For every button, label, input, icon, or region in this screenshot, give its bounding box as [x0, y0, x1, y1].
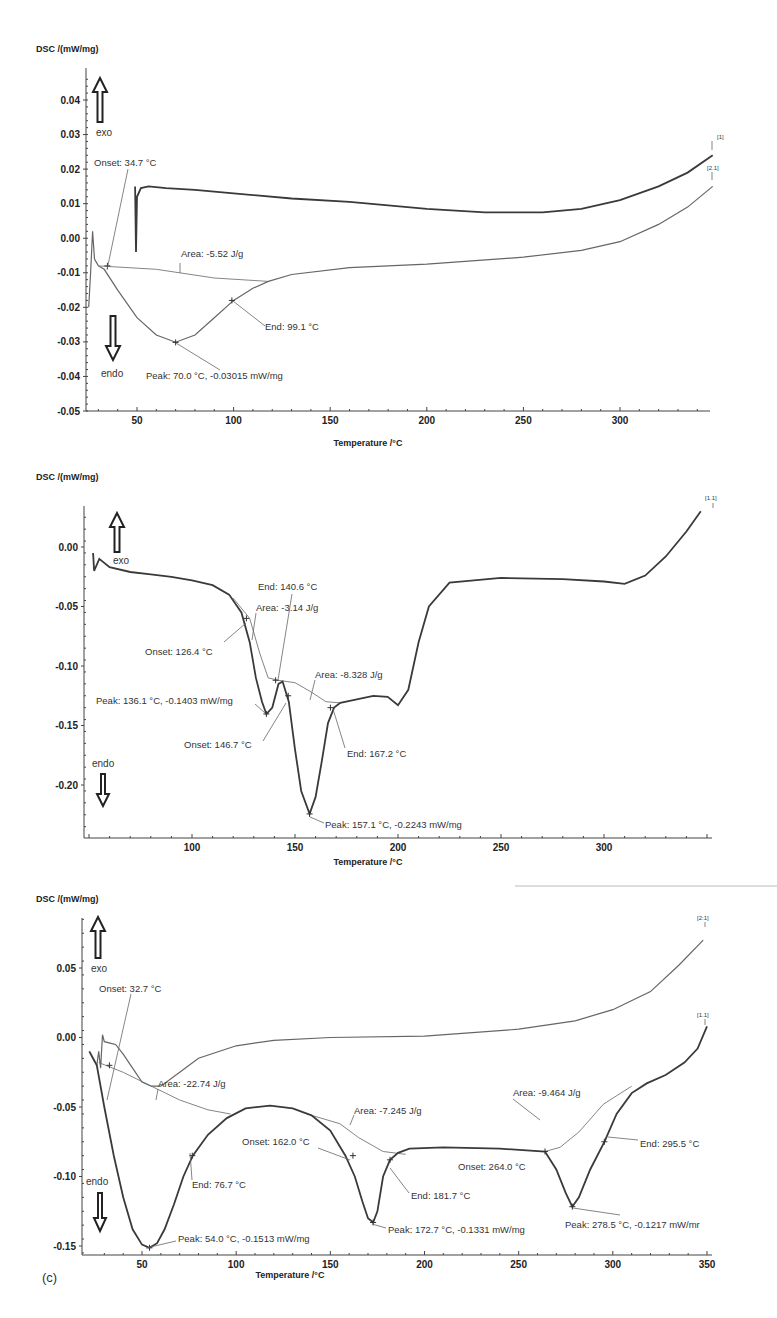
- annotation-peak: Peak: 70.0 °C, -0.03015 mW/mg: [146, 370, 283, 381]
- annotation-onset: Onset: 264.0 °C: [458, 1161, 526, 1172]
- svg-text:100: 100: [184, 842, 201, 853]
- annotation-onset: Onset: 162.0 °C: [242, 1136, 310, 1147]
- svg-text:0.05: 0.05: [57, 963, 77, 974]
- axes: 1001502002503000.00-0.05-0.10-0.15-0.20: [55, 506, 712, 853]
- svg-text:-0.05: -0.05: [53, 1102, 76, 1113]
- svg-text:-0.15: -0.15: [55, 720, 78, 731]
- annotation-area: Area: -7.245 J/g: [354, 1105, 422, 1116]
- annotation-area: Area: -8.328 J/g: [315, 669, 383, 680]
- axes: 501001502002503003500.050.00-0.05-0.10-0…: [53, 918, 716, 1270]
- annotation-end: End: 181.7 °C: [411, 1190, 470, 1201]
- marker-cross-icon: [307, 811, 313, 817]
- endo-label: endo: [101, 368, 124, 379]
- svg-text:150: 150: [287, 842, 304, 853]
- exo-label: exo: [113, 555, 130, 566]
- svg-text:300: 300: [596, 842, 613, 853]
- baseline: [312, 1115, 406, 1154]
- panel-label: (c): [42, 1270, 57, 1285]
- annotation-peak: Peak: 157.1 °C, -0.2243 mW/mg: [325, 819, 462, 830]
- svg-text:300: 300: [612, 415, 629, 426]
- y-axis-label: DSC /(mW/mg): [36, 472, 99, 482]
- x-axis-label: Temperature /°C: [256, 1270, 325, 1280]
- svg-text:-0.10: -0.10: [55, 661, 78, 672]
- curve-tag: [1.1]: [697, 1012, 709, 1018]
- annotation-onset: Onset: 126.4 °C: [145, 646, 213, 657]
- svg-text:-0.20: -0.20: [55, 780, 78, 791]
- svg-text:-0.05: -0.05: [57, 406, 80, 417]
- exo-arrow-icon: [91, 917, 105, 958]
- svg-text:50: 50: [136, 1259, 148, 1270]
- x-axis-label: Temperature /°C: [334, 438, 403, 448]
- dsc-curve: [89, 1026, 707, 1247]
- svg-text:0.00: 0.00: [61, 233, 81, 244]
- annotation-area: Area: -3.14 J/g: [256, 602, 318, 613]
- annotation-leaders: [224, 503, 713, 823]
- curves: [93, 511, 701, 817]
- annotation-peak: Peak: 172.7 °C, -0.1331 mW/mg: [388, 1224, 525, 1235]
- annotation-area: Area: -5.52 J/g: [181, 248, 243, 259]
- annotation-area: Area: -9.464 J/g: [513, 1087, 581, 1098]
- svg-text:-0.03: -0.03: [57, 336, 80, 347]
- svg-text:50: 50: [131, 415, 143, 426]
- annotation-end: End: 76.7 °C: [192, 1179, 246, 1190]
- svg-text:0.00: 0.00: [57, 1032, 77, 1043]
- svg-text:200: 200: [416, 1259, 433, 1270]
- svg-text:150: 150: [322, 415, 339, 426]
- curve-tag: [2.1]: [707, 165, 719, 171]
- y-axis-label: DSC /(mW/mg): [36, 894, 99, 904]
- curves: [89, 940, 707, 1251]
- svg-text:250: 250: [493, 842, 510, 853]
- baseline: [98, 266, 268, 282]
- svg-text:0.03: 0.03: [61, 129, 81, 140]
- marker-cross-icon: [601, 1139, 607, 1145]
- annotation-end: End: 295.5 °C: [640, 1138, 699, 1149]
- curve-tag: [2:1]: [697, 915, 709, 921]
- svg-text:350: 350: [699, 1259, 716, 1270]
- chart-2: DSC /(mW/mg) 1001502002503000.00-0.05-0.…: [36, 472, 717, 867]
- annotation-onset: Onset: 34.7 °C: [94, 157, 157, 168]
- svg-text:-0.05: -0.05: [55, 601, 78, 612]
- marker-cross-icon: [273, 677, 279, 683]
- y-axis-label: DSC /(mW/mg): [36, 44, 99, 54]
- marker-cross-icon: [229, 297, 235, 303]
- endo-arrow-icon: [106, 316, 120, 360]
- svg-text:-0.02: -0.02: [57, 302, 80, 313]
- exo-arrow-icon: [110, 513, 124, 552]
- x-axis-label: Temperature /°C: [334, 857, 403, 867]
- svg-text:0.00: 0.00: [59, 542, 79, 553]
- endo-arrow-icon: [97, 774, 109, 806]
- endo-label: endo: [86, 1176, 109, 1187]
- svg-text:0.02: 0.02: [61, 164, 81, 175]
- svg-text:300: 300: [604, 1259, 621, 1270]
- exo-label: exo: [91, 963, 108, 974]
- annotation-peak: Peak: 54.0 °C, -0.1513 mW/mg: [178, 1233, 310, 1244]
- svg-text:150: 150: [322, 1259, 339, 1270]
- chart-3: DSC /(mW/mg) 501001502002503003500.050.0…: [36, 894, 716, 1285]
- svg-text:-0.04: -0.04: [57, 371, 80, 382]
- svg-text:-0.01: -0.01: [57, 267, 80, 278]
- svg-text:100: 100: [225, 415, 242, 426]
- svg-text:100: 100: [228, 1259, 245, 1270]
- svg-text:250: 250: [510, 1259, 527, 1270]
- dsc-curve: [97, 940, 703, 1086]
- svg-text:0.01: 0.01: [61, 198, 81, 209]
- annotation-peak: Peak: 136.1 °C, -0.1403 mW/mg: [96, 695, 233, 706]
- dsc-figure: DSC /(mW/mg) 501001502002503000.040.030.…: [0, 0, 777, 1318]
- endo-label: endo: [92, 758, 115, 769]
- marker-cross-icon: [350, 1153, 356, 1159]
- dsc-curve: [89, 186, 713, 342]
- annotation-area: Area: -22.74 J/g: [158, 1078, 226, 1089]
- exo-label: exo: [96, 127, 113, 138]
- svg-text:200: 200: [390, 842, 407, 853]
- endo-arrow-icon: [94, 1193, 106, 1231]
- annotation-peak: Peak: 278.5 °C, -0.1217 mW/mr: [565, 1219, 700, 1230]
- annotation-end: End: 140.6 °C: [258, 581, 317, 592]
- exo-arrow-icon: [93, 78, 107, 122]
- svg-text:-0.15: -0.15: [53, 1241, 76, 1252]
- svg-text:250: 250: [515, 415, 532, 426]
- curve-tag: [1.1]: [705, 495, 717, 501]
- dsc-curve: [93, 511, 701, 814]
- dsc-curve: [135, 155, 713, 252]
- chart-1: DSC /(mW/mg) 501001502002503000.040.030.…: [36, 44, 724, 448]
- annotation-end: End: 99.1 °C: [265, 321, 319, 332]
